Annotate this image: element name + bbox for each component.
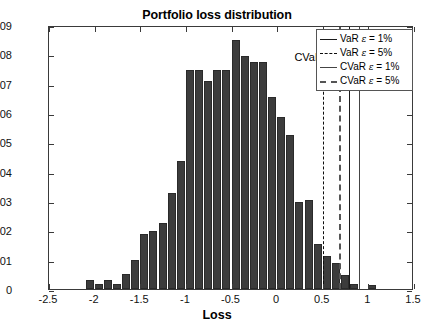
legend-label-post: = 1% bbox=[374, 61, 400, 72]
x-tick-mark bbox=[49, 284, 50, 289]
y-tick-mark bbox=[49, 203, 54, 204]
histogram-bar bbox=[222, 70, 230, 289]
legend-item[interactable]: VaR ε = 1% bbox=[319, 32, 410, 46]
histogram-bar bbox=[204, 81, 212, 289]
y-tick-mark bbox=[49, 56, 54, 57]
y-tick-mark bbox=[407, 291, 412, 292]
y-tick-mark bbox=[49, 291, 54, 292]
y-tick-mark bbox=[407, 174, 412, 175]
x-tick-label: -2 bbox=[89, 293, 99, 305]
histogram-bar bbox=[177, 161, 185, 289]
legend-item[interactable]: CVaR ε = 5% bbox=[319, 74, 410, 88]
histogram-bar bbox=[259, 62, 267, 289]
y-tick-label: 0.07 bbox=[0, 79, 12, 91]
x-tick-label: 1.5 bbox=[405, 293, 420, 305]
y-tick-mark bbox=[407, 203, 412, 204]
histogram-bar bbox=[232, 40, 240, 289]
legend-item[interactable]: CVaR ε = 1% bbox=[319, 60, 410, 74]
legend-label-pre: VaR bbox=[340, 33, 362, 44]
y-tick-mark bbox=[49, 115, 54, 116]
legend-item-label: VaR ε = 1% bbox=[340, 33, 392, 45]
histogram-bar bbox=[95, 284, 103, 289]
histogram-bar bbox=[268, 97, 276, 289]
x-tick-label: -0.5 bbox=[221, 293, 240, 305]
x-tick-label: -1.5 bbox=[130, 293, 149, 305]
histogram-bar bbox=[305, 200, 313, 289]
histogram-bar bbox=[104, 280, 112, 289]
legend: VaR ε = 1%VaR ε = 5%CVaR ε = 1%CVaR ε = … bbox=[316, 29, 413, 91]
y-tick-mark bbox=[49, 144, 54, 145]
x-axis-label: Loss bbox=[0, 308, 434, 322]
histogram-bar bbox=[186, 70, 194, 289]
x-tick-mark bbox=[368, 284, 369, 289]
x-tick-mark bbox=[186, 27, 187, 32]
x-tick-mark bbox=[140, 27, 141, 32]
histogram-bar bbox=[149, 231, 157, 289]
y-tick-mark bbox=[49, 262, 54, 263]
legend-item[interactable]: VaR ε = 5% bbox=[319, 46, 410, 60]
histogram-bar bbox=[140, 234, 148, 289]
legend-line-sample-icon bbox=[319, 48, 338, 58]
histogram-bar bbox=[368, 285, 376, 289]
histogram-bar bbox=[323, 256, 331, 289]
histogram-bar bbox=[195, 70, 203, 289]
y-tick-mark bbox=[49, 174, 54, 175]
legend-item-label: VaR ε = 5% bbox=[340, 47, 392, 59]
x-tick-mark bbox=[414, 284, 415, 289]
y-tick-mark bbox=[407, 144, 412, 145]
y-tick-mark bbox=[49, 86, 54, 87]
legend-label-post: = 5% bbox=[366, 47, 392, 58]
y-tick-mark bbox=[407, 115, 412, 116]
histogram-bar bbox=[286, 135, 294, 289]
legend-label-pre: CVaR bbox=[340, 75, 369, 86]
legend-line-sample-icon bbox=[319, 62, 338, 72]
y-tick-label: 0.02 bbox=[0, 225, 12, 237]
x-tick-mark bbox=[186, 284, 187, 289]
histogram-bar bbox=[86, 280, 94, 289]
histogram-bar bbox=[341, 275, 349, 289]
legend-label-post: = 5% bbox=[374, 75, 400, 86]
histogram-bar bbox=[159, 223, 167, 289]
histogram-bar bbox=[122, 274, 130, 289]
x-tick-label: -2.5 bbox=[39, 293, 58, 305]
x-tick-mark bbox=[277, 27, 278, 32]
y-tick-mark bbox=[49, 232, 54, 233]
histogram-bar bbox=[213, 70, 221, 289]
y-tick-label: 0 bbox=[6, 284, 12, 296]
x-tick-mark bbox=[232, 27, 233, 32]
legend-item-label: CVaR ε = 1% bbox=[340, 61, 399, 73]
legend-label-post: = 1% bbox=[366, 33, 392, 44]
y-tick-label: 0.03 bbox=[0, 196, 12, 208]
y-tick-label: 0.04 bbox=[0, 167, 12, 179]
legend-label-pre: CVaR bbox=[340, 61, 369, 72]
y-tick-mark bbox=[407, 27, 412, 28]
y-tick-mark bbox=[407, 262, 412, 263]
histogram-bar bbox=[314, 244, 322, 289]
y-tick-label: 0.09 bbox=[0, 20, 12, 32]
x-tick-label: 0.5 bbox=[314, 293, 329, 305]
legend-line-sample-icon bbox=[319, 34, 338, 44]
histogram-bar bbox=[350, 284, 358, 289]
x-tick-mark bbox=[95, 27, 96, 32]
legend-item-label: CVaR ε = 5% bbox=[340, 75, 399, 87]
histogram-bar bbox=[168, 193, 176, 289]
x-tick-mark bbox=[140, 284, 141, 289]
y-tick-label: 0.06 bbox=[0, 108, 12, 120]
y-tick-label: 0.05 bbox=[0, 137, 12, 149]
x-tick-mark bbox=[414, 27, 415, 32]
histogram-bar bbox=[277, 117, 285, 289]
x-tick-label: 1 bbox=[364, 293, 370, 305]
legend-label-pre: VaR bbox=[340, 47, 362, 58]
chart-figure: Portfolio loss distribution 00.010.020.0… bbox=[0, 0, 434, 336]
histogram-bar bbox=[295, 202, 303, 289]
legend-line-sample-icon bbox=[319, 76, 338, 86]
y-tick-label: 0.08 bbox=[0, 49, 12, 61]
x-tick-mark bbox=[323, 284, 324, 289]
x-tick-label: -1 bbox=[180, 293, 190, 305]
x-tick-mark bbox=[232, 284, 233, 289]
histogram-bar bbox=[250, 62, 258, 289]
x-tick-mark bbox=[95, 284, 96, 289]
chart-title: Portfolio loss distribution bbox=[0, 8, 434, 22]
x-tick-label: 0 bbox=[273, 293, 279, 305]
histogram-bar bbox=[241, 56, 249, 289]
